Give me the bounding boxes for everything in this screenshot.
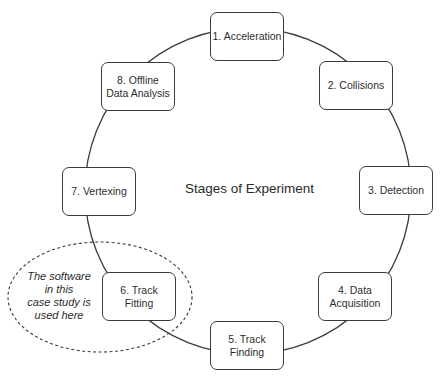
stage-offline-data-analysis: 8. Offline Data Analysis: [101, 62, 175, 111]
software-annotation: The software in this case study is used …: [20, 270, 98, 322]
stage-collisions: 2. Collisions: [319, 61, 393, 110]
stage-track-fitting: 6. Track Fitting: [102, 272, 176, 321]
stage-detection: 3. Detection: [359, 166, 433, 215]
stage-vertexing: 7. Vertexing: [62, 167, 136, 216]
stage-data-acquisition: 4. Data Acquisition: [318, 272, 392, 321]
diagram-title: Stages of Experiment: [185, 181, 314, 196]
stage-track-finding: 5. Track Finding: [210, 321, 284, 370]
stage-acceleration: 1. Acceleration: [210, 12, 284, 61]
